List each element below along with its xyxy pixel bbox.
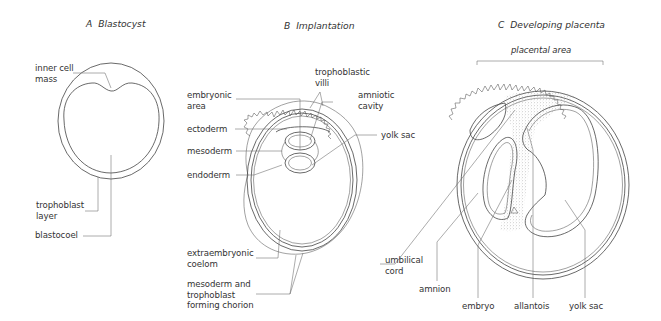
- label-allantois: allantois: [514, 301, 549, 312]
- panel-b-title: B Implantation: [284, 20, 354, 31]
- label-amniotic-cavity: amniotic cavity: [358, 90, 394, 111]
- implantation-drawing: [235, 92, 377, 294]
- label-yolk-sac-b: yolk sac: [381, 130, 415, 141]
- label-amnion: amnion: [419, 284, 451, 295]
- label-inner-cell-mass: inner cell mass: [35, 63, 74, 84]
- label-embryo: embryo: [462, 301, 494, 312]
- label-trophoblastic-villi: trophoblastic villi: [315, 67, 370, 88]
- embryo-development-diagram: A Blastocyst B Implantation C Developing…: [0, 0, 661, 321]
- label-blastocoel: blastocoel: [35, 230, 78, 241]
- label-endoderm: endoderm: [187, 170, 230, 181]
- label-trophoblast-layer: trophoblast layer: [36, 200, 84, 221]
- label-placental-area: placental area: [511, 45, 571, 56]
- label-embryonic-area: embryonic area: [187, 90, 232, 111]
- panel-c-title: C Developing placenta: [498, 19, 605, 30]
- panel-a-title: A Blastocyst: [86, 18, 146, 29]
- label-yolk-sac-c: yolk sac: [569, 301, 603, 312]
- label-umbilical-cord: umbilical cord: [385, 255, 423, 276]
- label-chorion: mesoderm and trophoblast forming chorion: [187, 279, 254, 311]
- label-extraembryonic-coelom: extraembryonic coelom: [187, 248, 254, 269]
- label-ectoderm: ectoderm: [187, 124, 227, 135]
- label-mesoderm: mesoderm: [187, 146, 232, 157]
